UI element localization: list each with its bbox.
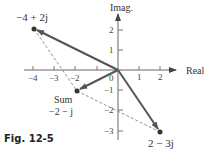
point-sum: [75, 89, 80, 94]
x-ticks: [33, 66, 160, 70]
y-tick-label: −1: [104, 85, 114, 95]
point-b-label: 2 − 3j: [148, 137, 174, 149]
real-axis-label: Real: [186, 65, 205, 76]
x-tick-label: −4: [28, 73, 38, 83]
phasor-diagram: −4 −3 −2 1 2 2 1 0 −1 −2 −3 Imag. Real −…: [0, 0, 216, 154]
y-tick-label: 2: [109, 25, 114, 35]
x-tick-label: −2: [70, 73, 80, 83]
point-a: [32, 27, 37, 32]
y-tick-label: −3: [104, 126, 114, 136]
x-tick-label: 1: [137, 72, 142, 82]
point-b: [158, 130, 163, 135]
point-a-label: −4 + 2j: [16, 11, 48, 23]
y-ticks: [118, 30, 123, 131]
y-tick-label: 1: [109, 45, 114, 55]
sum-value-label: −2 − j: [49, 106, 73, 117]
x-tick-label: −3: [49, 73, 59, 83]
sum-label: Sum: [54, 94, 73, 105]
vector-a: [37, 30, 118, 70]
figure-caption: Fig. 12-5: [4, 133, 54, 144]
x-tick-label: 2: [158, 72, 163, 82]
imag-axis-label: Imag.: [110, 2, 133, 13]
